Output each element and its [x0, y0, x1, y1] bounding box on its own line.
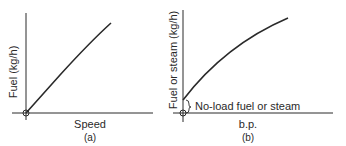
- diagram-canvas: Fuel (kg/h) Speed (a) No-load fuel or st…: [0, 0, 346, 146]
- panel-b-caption: (b): [242, 132, 254, 143]
- no-load-brace-icon: [186, 100, 191, 113]
- panel-b: No-load fuel or steam Fuel or steam (kg/…: [167, 10, 333, 143]
- panel-b-fuel-steam-curve: [183, 18, 288, 100]
- panel-a-y-axis-label: Fuel (kg/h): [7, 46, 19, 99]
- panel-a-x-axis-label: Speed: [74, 118, 106, 130]
- panel-b-annotation: No-load fuel or steam: [195, 100, 300, 112]
- panel-a: Fuel (kg/h) Speed (a): [7, 13, 153, 143]
- panel-b-x-axis-label: b.p.: [239, 118, 257, 130]
- panel-a-caption: (a): [84, 132, 96, 143]
- panel-b-y-axis-label: Fuel or steam (kg/h): [167, 11, 179, 109]
- panel-a-fuel-curve: [26, 23, 111, 113]
